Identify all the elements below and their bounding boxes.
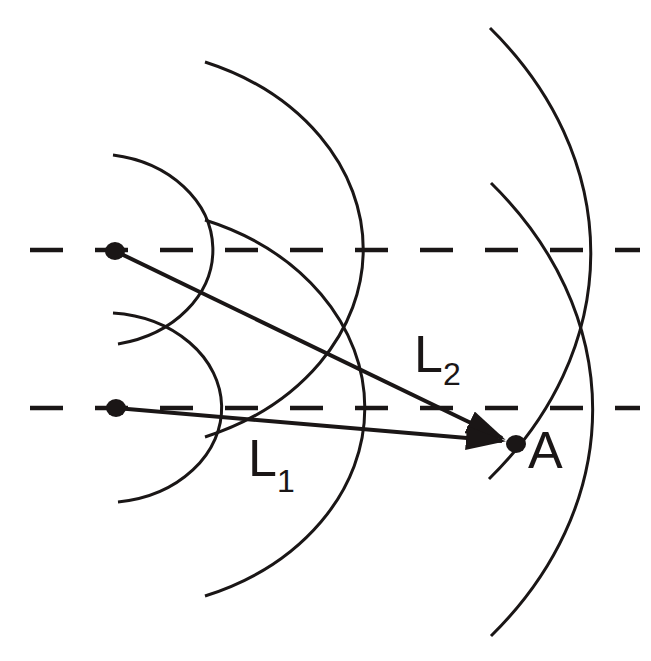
source-s2-dot xyxy=(106,399,126,417)
path-l1-arrow xyxy=(116,408,502,441)
interference-diagram: L1 L2 A xyxy=(0,0,651,661)
wavefront-s1-large xyxy=(489,28,591,479)
label-a: A xyxy=(528,421,563,479)
point-a-dot xyxy=(506,435,526,453)
label-l1: L1 xyxy=(248,429,295,499)
label-l2: L2 xyxy=(414,325,461,392)
source-s1-dot xyxy=(105,242,125,260)
